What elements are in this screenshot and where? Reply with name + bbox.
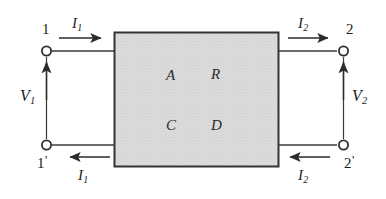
terminal-label-2-prime: 2' (344, 153, 354, 171)
right-port-wires (278, 51, 344, 145)
network-parameter-b: R (211, 67, 220, 82)
network-box-rect (115, 33, 279, 167)
left-port-wires (47, 51, 115, 145)
terminal-node-1[interactable] (42, 46, 51, 55)
terminal-node-1-prime[interactable] (42, 140, 51, 149)
terminal-node-2-prime[interactable] (339, 140, 348, 149)
voltage-label-v2: V2 (352, 88, 367, 107)
terminal-label-2p-text: 2 (344, 155, 352, 171)
network-parameter-a: A (166, 68, 175, 83)
current-label-i1-top: I1 (72, 16, 82, 33)
terminal-label-2-text: 2 (346, 21, 354, 37)
terminal-label-1-prime: 1' (37, 153, 47, 171)
network-parameter-c: C (166, 118, 176, 133)
two-port-network-box (115, 33, 279, 167)
terminal-label-2p-prime-mark: ' (352, 152, 354, 167)
current-label-i2-top-subscript: 2 (303, 22, 308, 33)
terminal-label-1p-prime-mark: ' (45, 152, 47, 167)
current-label-i1-bottom-subscript: 1 (83, 174, 88, 185)
two-port-network-figure: A R C D 1 1' 2 2' I1 I1 I2 I2 V1 V2 (0, 0, 386, 199)
current-label-i2-bottom: I2 (298, 168, 308, 185)
terminal-label-1p-text: 1 (37, 155, 45, 171)
terminal-label-2: 2 (346, 19, 354, 37)
diagram-canvas (0, 0, 386, 199)
voltage-label-v2-subscript: 2 (362, 95, 367, 106)
network-parameter-d: D (211, 118, 222, 133)
terminal-node-2[interactable] (339, 46, 348, 55)
voltage-label-v1-symbol: V (20, 87, 30, 104)
current-label-i1-top-subscript: 1 (77, 22, 82, 33)
current-label-i2-top: I2 (298, 16, 308, 33)
terminal-label-1: 1 (42, 19, 50, 37)
voltage-label-v2-symbol: V (352, 87, 362, 104)
current-label-i2-bottom-subscript: 2 (303, 174, 308, 185)
terminal-label-1-text: 1 (42, 21, 50, 37)
voltage-label-v1: V1 (20, 88, 35, 107)
voltage-label-v1-subscript: 1 (30, 95, 35, 106)
current-label-i1-bottom: I1 (78, 168, 88, 185)
